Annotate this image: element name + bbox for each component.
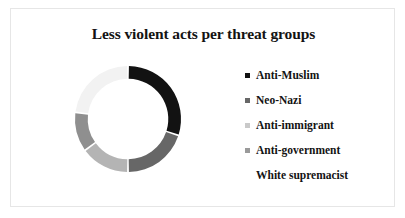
legend-item-label: White supremacist [256, 170, 348, 182]
donut-chart [73, 64, 183, 174]
donut-slice[interactable] [86, 143, 128, 172]
legend-item[interactable]: Neo-Nazi [245, 88, 395, 113]
legend-swatch-icon [245, 148, 250, 153]
donut-slice[interactable] [129, 132, 178, 172]
legend-swatch-icon [245, 98, 250, 103]
slide-canvas: Less violent acts per threat groups Anti… [0, 0, 405, 218]
legend-swatch-icon [245, 73, 250, 78]
donut-slice[interactable] [129, 66, 181, 134]
chart-legend: Anti-MuslimNeo-NaziAnti-immigrantAnti-go… [245, 63, 395, 188]
legend-item-label: Anti-government [256, 145, 340, 157]
legend-swatch-icon [245, 123, 250, 128]
legend-item-label: Anti-Muslim [256, 70, 319, 82]
legend-item-label: Neo-Nazi [256, 95, 301, 107]
chart-frame: Less violent acts per threat groups Anti… [10, 8, 395, 207]
legend-item[interactable]: White supremacist [245, 163, 395, 188]
donut-slice[interactable] [76, 66, 128, 113]
page-title: Less violent acts per threat groups [11, 25, 396, 43]
legend-swatch-icon [245, 173, 250, 178]
legend-item[interactable]: Anti-government [245, 138, 395, 163]
legend-item[interactable]: Anti-immigrant [245, 113, 395, 138]
legend-item-label: Anti-immigrant [256, 120, 334, 132]
legend-item[interactable]: Anti-Muslim [245, 63, 395, 88]
donut-slice[interactable] [75, 113, 95, 149]
donut-chart-svg [73, 64, 183, 174]
